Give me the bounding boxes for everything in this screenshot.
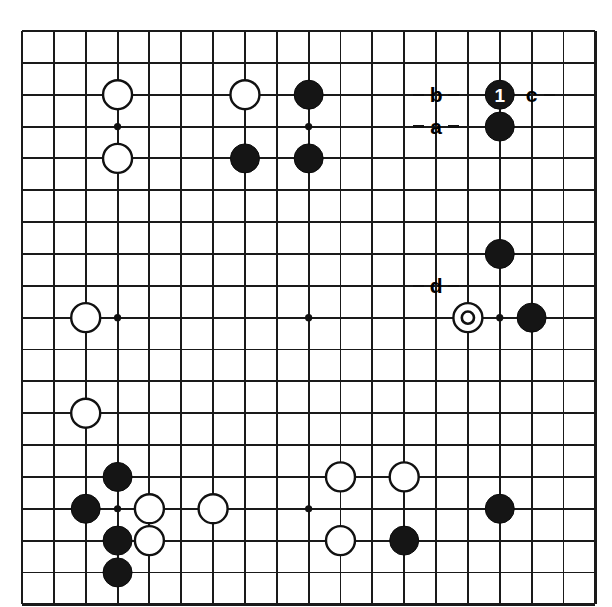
black-stone[interactable] [103,558,132,587]
stone-body [230,144,259,173]
black-stone[interactable] [390,526,419,555]
stone-body [103,462,132,491]
stone-body [135,526,164,555]
star-point [114,314,121,321]
star-point [114,123,121,130]
stone-body [71,494,100,523]
white-stone[interactable] [326,462,355,491]
stone-body [135,494,164,523]
stone-body [485,494,514,523]
black-stone[interactable] [294,144,323,173]
stone-body [230,80,259,109]
white-stone[interactable] [453,303,482,332]
black-stone[interactable] [103,526,132,555]
black-stone[interactable] [71,494,100,523]
black-stone[interactable] [230,144,259,173]
star-point [305,505,312,512]
white-stone[interactable] [103,80,132,109]
white-stone[interactable] [230,80,259,109]
stone-body [103,526,132,555]
white-stone[interactable] [135,526,164,555]
black-stone[interactable] [485,239,514,268]
stone-body [71,303,100,332]
stone-body [390,526,419,555]
stone-body [517,303,546,332]
point-label-a: a [430,115,442,138]
star-point [496,314,503,321]
go-board-svg: 1 bcad [0,0,612,607]
point-label-c: c [526,83,538,106]
star-point [114,505,121,512]
stone-body [71,399,100,428]
stone-body [103,80,132,109]
stone-body [294,144,323,173]
point-label-d: d [430,274,443,297]
stone-body [326,462,355,491]
black-stone[interactable]: 1 [485,80,514,109]
white-stone[interactable] [135,494,164,523]
go-board-diagram: 1 bcad [0,0,612,607]
black-stone[interactable] [517,303,546,332]
white-stone[interactable] [71,303,100,332]
point-label-b: b [430,83,443,106]
black-stone[interactable] [485,112,514,141]
stone-body [103,558,132,587]
stone-body [103,144,132,173]
stone-body [453,303,482,332]
white-stone[interactable] [390,462,419,491]
white-stone[interactable] [199,494,228,523]
white-stone[interactable] [326,526,355,555]
stone-body [485,112,514,141]
stone-body [390,462,419,491]
stone-move-number: 1 [494,85,505,106]
white-stone[interactable] [71,399,100,428]
stone-body [326,526,355,555]
stone-body [294,80,323,109]
star-point [305,123,312,130]
white-stone[interactable] [103,144,132,173]
black-stone[interactable] [294,80,323,109]
black-stone[interactable] [485,494,514,523]
stone-body [199,494,228,523]
stone-body [485,239,514,268]
star-point [305,314,312,321]
black-stone[interactable] [103,462,132,491]
